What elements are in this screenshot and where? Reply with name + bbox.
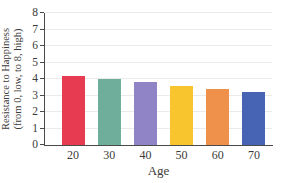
- y-tick-mark-8: [40, 12, 44, 13]
- y-tick-label-1: 1: [22, 122, 38, 135]
- x-axis-line: [44, 145, 273, 146]
- gridline-y-8: [45, 12, 272, 13]
- y-tick-label-3: 3: [22, 89, 38, 102]
- gridline-y-6: [45, 45, 272, 46]
- y-tick-label-5: 5: [22, 56, 38, 69]
- y-tick-mark-3: [40, 95, 44, 96]
- y-tick-label-0: 0: [22, 138, 38, 151]
- x-tick-label-40: 40: [127, 149, 163, 162]
- bar-age-70: [242, 92, 265, 145]
- y-tick-mark-7: [40, 29, 44, 30]
- x-axis-title: Age: [45, 164, 272, 178]
- y-tick-label-7: 7: [22, 23, 38, 36]
- y-axis-line: [44, 13, 45, 146]
- y-tick-mark-6: [40, 45, 44, 46]
- y-tick-mark-4: [40, 78, 44, 79]
- bar-age-40: [134, 82, 157, 145]
- y-tick-label-2: 2: [22, 105, 38, 118]
- bar-age-50: [170, 86, 193, 145]
- y-tick-mark-5: [40, 62, 44, 63]
- y-tick-mark-0: [40, 144, 44, 145]
- y-axis-title-line1: Resistance to Happiness: [0, 13, 12, 145]
- bar-age-30: [98, 79, 121, 145]
- bar-age-60: [206, 89, 229, 145]
- x-tick-label-30: 30: [91, 149, 127, 162]
- x-tick-label-20: 20: [55, 149, 91, 162]
- gridline-y-7: [45, 29, 272, 30]
- y-tick-label-8: 8: [22, 6, 38, 19]
- y-tick-label-4: 4: [22, 72, 38, 85]
- x-tick-label-60: 60: [200, 149, 236, 162]
- x-tick-label-50: 50: [164, 149, 200, 162]
- y-tick-mark-1: [40, 128, 44, 129]
- x-tick-label-70: 70: [236, 149, 272, 162]
- bar-age-20: [62, 76, 85, 145]
- y-tick-label-6: 6: [22, 39, 38, 52]
- y-tick-mark-2: [40, 111, 44, 112]
- gridline-y-5: [45, 62, 272, 63]
- bar-chart: Resistance to Happiness (from 0, low, to…: [0, 0, 281, 183]
